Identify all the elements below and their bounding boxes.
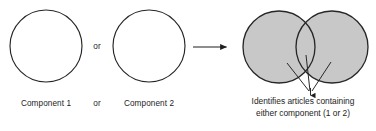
operator-between-labels: or — [93, 99, 100, 109]
component-1-circle — [10, 10, 82, 82]
result-caption-line-1: Identifies articles containing — [252, 96, 355, 107]
component-2-label: Component 2 — [124, 99, 174, 109]
component-2-circle — [113, 10, 185, 82]
operator-between-circles: or — [93, 42, 100, 52]
result-caption-line-2: either component (1 or 2) — [256, 108, 350, 119]
component-1-label: Component 1 — [21, 99, 71, 109]
boolean-or-venn-figure: or Component 1 or Component 2 Identifies… — [0, 0, 376, 131]
